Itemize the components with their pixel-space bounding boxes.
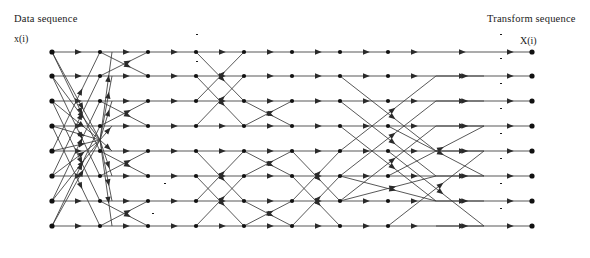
- flow-arrowhead: [75, 198, 82, 203]
- multiplier-label-m10: [164, 183, 166, 184]
- flow-node: [338, 99, 342, 103]
- flow-arrowhead: [219, 49, 226, 54]
- flow-arrowhead: [461, 148, 468, 153]
- output-multiplier-row-3: [500, 108, 502, 109]
- flow-arrowhead: [267, 73, 274, 78]
- multiplier-label-m1: [196, 34, 198, 35]
- flow-edge: [52, 76, 100, 140]
- flow-node: [529, 148, 534, 153]
- flow-arrowhead: [507, 148, 514, 153]
- flow-node: [146, 99, 150, 103]
- flow-node: [194, 50, 198, 54]
- multiplier-label-m2: [196, 61, 198, 62]
- flow-edge: [100, 140, 112, 226]
- flow-node: [194, 124, 198, 128]
- flow-node: [146, 74, 150, 78]
- flow-arrowhead: [219, 123, 226, 128]
- transform-sequence-title: Transform sequence: [487, 14, 576, 25]
- flow-arrowhead: [315, 49, 322, 54]
- flow-node: [49, 123, 54, 128]
- flow-node: [146, 149, 150, 153]
- flow-node: [49, 98, 54, 103]
- flow-arrowhead: [507, 173, 514, 178]
- flow-node: [194, 199, 198, 203]
- flow-node: [529, 73, 534, 78]
- flow-arrowhead: [363, 148, 370, 153]
- flow-node: [49, 223, 54, 228]
- fraction-denominator: [500, 158, 502, 159]
- flow-node: [338, 174, 342, 178]
- flow-arrowhead: [267, 173, 274, 178]
- flow-node: [386, 74, 390, 78]
- fraction-denominator: [164, 183, 166, 184]
- flow-node: [242, 149, 246, 153]
- flow-arrowhead: [171, 173, 178, 178]
- flow-arrowhead: [171, 223, 178, 228]
- flow-node: [529, 123, 534, 128]
- flow-arrowhead: [75, 73, 82, 78]
- flow-node: [386, 174, 390, 178]
- flow-node: [290, 224, 294, 228]
- flow-node: [98, 149, 102, 153]
- flow-node: [386, 99, 390, 103]
- flow-node: [242, 50, 246, 54]
- flow-node: [290, 124, 294, 128]
- fraction-denominator: [196, 34, 198, 35]
- flow-node: [49, 173, 54, 178]
- flow-arrowhead: [461, 223, 468, 228]
- flow-node: [146, 50, 150, 54]
- flow-arrowhead: [436, 181, 445, 189]
- flow-node: [98, 99, 102, 103]
- flow-arrowhead: [123, 123, 130, 128]
- flow-arrowhead: [388, 131, 397, 139]
- flow-node: [529, 173, 534, 178]
- flow-edge: [52, 101, 100, 140]
- output-multiplier-row-7: [500, 208, 502, 209]
- flow-arrowhead: [171, 198, 178, 203]
- flow-node: [194, 149, 198, 153]
- flow-arrowhead: [507, 198, 514, 203]
- flow-node: [98, 74, 102, 78]
- flow-node: [98, 199, 102, 203]
- flow-arrowhead: [363, 73, 370, 78]
- fraction-denominator: [196, 61, 198, 62]
- output-variable-label: X(i): [520, 36, 537, 46]
- flow-node: [49, 148, 54, 153]
- flow-arrowhead: [411, 148, 418, 153]
- fraction-denominator: [500, 34, 502, 35]
- flow-arrowhead: [267, 49, 274, 54]
- fraction-denominator: [500, 108, 502, 109]
- output-multiplier-row-2: [500, 83, 502, 84]
- flow-arrowhead: [219, 148, 226, 153]
- flow-node: [290, 50, 294, 54]
- flow-arrowhead: [77, 182, 85, 190]
- flow-node: [194, 174, 198, 178]
- flow-arrowhead: [411, 73, 418, 78]
- flow-arrowhead: [388, 163, 397, 171]
- flow-arrowhead: [315, 123, 322, 128]
- flow-node: [242, 124, 246, 128]
- flow-arrowhead: [461, 73, 468, 78]
- flow-node: [242, 174, 246, 178]
- flow-node: [98, 124, 102, 128]
- flow-arrowhead: [363, 49, 370, 54]
- flow-arrowhead: [411, 98, 418, 103]
- flow-node: [338, 224, 342, 228]
- flow-arrowhead: [123, 198, 130, 203]
- flow-node: [242, 99, 246, 103]
- flow-node: [338, 50, 342, 54]
- flow-node: [529, 223, 534, 228]
- flow-node: [98, 50, 102, 54]
- flow-node: [386, 224, 390, 228]
- fraction-denominator: [500, 83, 502, 84]
- flow-arrowhead: [461, 123, 468, 128]
- flow-graph-canvas: [0, 0, 590, 258]
- flow-node: [194, 99, 198, 103]
- flow-node: [386, 199, 390, 203]
- flow-arrowhead: [411, 173, 418, 178]
- flow-arrowhead: [171, 123, 178, 128]
- flow-arrowhead: [363, 123, 370, 128]
- flow-arrowhead: [171, 148, 178, 153]
- flow-node: [386, 50, 390, 54]
- flow-arrowhead: [315, 148, 322, 153]
